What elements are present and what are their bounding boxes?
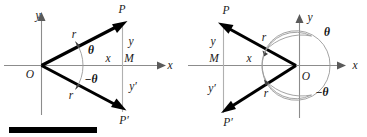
right-ray-op-arrowhead — [218, 23, 234, 34]
diagram-svg: y x O P P′ M r r θ −θ x y y′ — [0, 0, 367, 137]
right-origin-label: O — [302, 70, 311, 82]
left-point-p-label: P — [117, 3, 125, 15]
right-theta-arc-ext — [265, 35, 312, 51]
right-foot-label: M — [208, 52, 220, 64]
left-y-axis-label: y — [34, 9, 41, 22]
right-neg-theta-arc-ext — [266, 81, 312, 96]
right-segment-x-label: x — [245, 52, 252, 64]
right-y-axis-arrowhead — [296, 14, 304, 23]
figure-container: y x O P P′ M r r θ −θ x y y′ — [0, 0, 367, 137]
left-ray-op-arrowhead — [112, 21, 128, 33]
left-theta-label: θ — [88, 44, 94, 56]
right-x-axis-label: x — [351, 59, 358, 71]
left-radius-upper-label: r — [72, 28, 77, 40]
right-segment-y-label: y — [209, 35, 216, 48]
left-neg-theta-label: −θ — [85, 73, 98, 85]
left-diagram: y x O P P′ M r r θ −θ x y y′ — [4, 3, 173, 126]
left-radius-lower-label: r — [69, 89, 74, 101]
left-segment-x-label: x — [104, 52, 111, 64]
left-ray-op-prime-arrowhead — [111, 99, 127, 111]
right-x-axis-arrowhead — [337, 62, 346, 70]
left-point-p-prime-label: P′ — [118, 114, 129, 126]
right-neg-theta-label: −θ — [316, 86, 329, 98]
left-x-axis-label: x — [166, 59, 173, 71]
right-radius-lower-label: r — [264, 87, 269, 99]
right-diagram: y x O P P′ M r r θ −θ x y y′ — [188, 4, 358, 128]
left-foot-label: M — [123, 52, 135, 64]
right-theta-label: θ — [324, 26, 330, 38]
left-segment-y-label: y — [127, 35, 134, 48]
black-scale-bar — [9, 127, 97, 133]
right-segment-y-prime-label: y′ — [207, 82, 216, 95]
left-ray-op-prime — [42, 66, 119, 107]
right-radius-upper-label: r — [262, 31, 267, 43]
left-origin-label: O — [26, 68, 35, 80]
left-x-axis-arrowhead — [157, 62, 166, 70]
right-point-p-prime-label: P′ — [222, 116, 233, 128]
right-y-axis-label: y — [306, 11, 313, 24]
left-segment-y-prime-label: y′ — [128, 80, 137, 93]
right-point-p-label: P — [221, 4, 229, 16]
